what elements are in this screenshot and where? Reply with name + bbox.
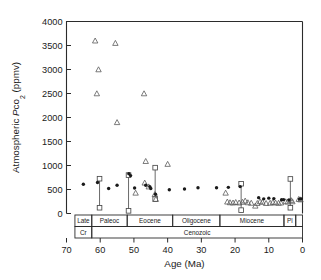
y-tick-label: 1000 [42,161,62,171]
data-point-triangle [96,67,101,72]
data-point-circle [82,183,85,186]
data-point-circle [149,187,152,190]
epoch-label: Eocene [139,217,161,224]
data-point-circle [129,174,132,177]
data-point-triangle [223,190,228,195]
data-point-circle [267,196,270,199]
data-point-circle [282,198,285,201]
x-tick-label: 0 [300,245,305,255]
epoch-label: Miocene [240,217,265,224]
epoch-cell-unlabeled-6 [296,215,303,227]
data-point-circle [144,183,147,186]
data-point-triangle [141,91,146,96]
range-bound-square [97,205,102,210]
data-point-triangle [113,40,118,45]
y-tick-label: 0 [57,209,62,219]
data-point-triangle [133,190,138,195]
data-point-circle [107,187,110,190]
data-point-triangle [92,38,97,43]
data-point-circle [96,181,99,184]
y-tick-label: 3500 [42,41,62,51]
epoch-label: Paleoc [100,217,120,224]
range-bound-square [239,208,244,213]
x-tick-label: 60 [95,245,105,255]
epoch-label: Late [77,217,90,224]
era-label: Cr [80,229,88,236]
range-bound-square [126,209,131,214]
range-bound-square [153,165,158,170]
x-tick-label: 10 [264,245,274,255]
data-point-circle [168,188,171,191]
x-tick-label: 30 [196,245,206,255]
range-bound-square [288,205,293,210]
y-tick-label: 2000 [42,113,62,123]
data-point-triangle [165,161,170,166]
y-tick-label: 4000 [42,17,62,27]
epoch-label: Oligocene [182,217,211,225]
data-point-circle [227,186,230,189]
data-point-circle [299,197,302,200]
data-point-circle [215,186,218,189]
data-point-circle [257,196,260,199]
data-point-circle [272,197,275,200]
data-point-circle [287,198,290,201]
data-point-triangle [143,158,148,163]
y-tick-label: 1500 [42,137,62,147]
x-axis-label: Age (Ma) [164,258,204,269]
range-bound-square [97,176,102,181]
data-point-triangle [94,91,99,96]
data-point-circle [262,197,265,200]
x-tick-label: 40 [163,245,173,255]
data-point-circle [133,186,136,189]
y-tick-label: 500 [47,185,62,195]
co2-age-scatter-chart: 05001000150020002500300035004000Atmosphe… [0,0,321,280]
data-point-circle [238,185,241,188]
data-point-circle [115,183,118,186]
y-axis-label: Atmospheric Pco2 (ppmv) [10,62,26,173]
x-tick-label: 50 [129,245,139,255]
y-tick-label: 2500 [42,89,62,99]
epoch-label: Pl [287,217,293,224]
era-label: Cenozoic [184,229,211,236]
y-tick-label: 3000 [42,65,62,75]
figure-container: 05001000150020002500300035004000Atmosphe… [0,0,321,280]
data-point-circle [196,186,199,189]
plot-axes [67,22,303,214]
data-point-circle [154,193,157,196]
data-point-triangle [114,120,119,125]
x-tick-label: 20 [230,245,240,255]
range-bound-square [288,177,293,182]
data-point-circle [183,187,186,190]
x-tick-label: 70 [61,245,71,255]
